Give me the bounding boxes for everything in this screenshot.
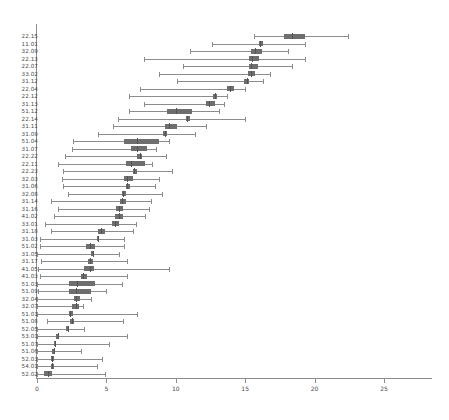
boxplot-row[interactable]: 22.07 (0, 63, 449, 70)
boxplot-row[interactable]: 11.01 (0, 41, 449, 48)
row-label: 51.07 (4, 341, 38, 348)
x-tick-label: 10 (172, 385, 180, 392)
box-iqr[interactable] (69, 281, 95, 286)
boxplot-row[interactable]: 31.16 (0, 206, 449, 213)
whisker-cap-max (156, 147, 157, 152)
whisker-line (51, 231, 133, 232)
box-iqr[interactable] (249, 56, 259, 61)
whisker-line (38, 269, 168, 270)
boxplot-row[interactable]: 31.12 (0, 78, 449, 85)
boxplot-row[interactable]: 51.02 (0, 243, 449, 250)
boxplot-row[interactable]: 31.13 (0, 101, 449, 108)
boxplot-row[interactable]: 32.07 (0, 303, 449, 310)
whisker-cap-max (102, 357, 103, 362)
box-iqr[interactable] (165, 124, 177, 129)
x-tick (315, 379, 316, 383)
boxplot-row[interactable]: 31.11 (0, 123, 449, 130)
whisker-cap-max (105, 372, 106, 377)
median-line (77, 281, 78, 287)
boxplot-row[interactable]: 31.06 (0, 183, 449, 190)
median-line (209, 101, 210, 107)
boxplot-row[interactable]: 52.05 (0, 326, 449, 333)
median-line (119, 206, 120, 212)
boxplot-row[interactable]: 52.03 (0, 356, 449, 363)
boxplot-row[interactable]: 22.22 (0, 153, 449, 160)
whisker-cap-max (123, 319, 124, 324)
whisker-cap-max (348, 34, 349, 39)
box-iqr[interactable] (126, 161, 145, 166)
boxplot-row[interactable]: 51.08 (0, 318, 449, 325)
box-iqr[interactable] (206, 101, 214, 106)
boxplot-row[interactable]: 53.01 (0, 333, 449, 340)
box-iqr[interactable] (124, 176, 132, 181)
boxplot-row[interactable]: 51.06 (0, 348, 449, 355)
whisker-cap-max (263, 79, 264, 84)
boxplot-row[interactable]: 22.14 (0, 116, 449, 123)
boxplot-row[interactable]: 41.03 (0, 273, 449, 280)
whisker-line (63, 186, 155, 187)
whisker-cap-min (41, 259, 42, 264)
boxplot-row[interactable]: 22.04 (0, 86, 449, 93)
median-line (165, 131, 166, 137)
boxplot-row[interactable]: 52.02 (0, 371, 449, 378)
boxplot-row[interactable]: 22.11 (0, 161, 449, 168)
boxplot-row[interactable]: 31.09 (0, 131, 449, 138)
whisker-cap-max (137, 312, 138, 317)
boxplot-row[interactable]: 33.01 (0, 221, 449, 228)
box-iqr[interactable] (167, 109, 192, 114)
boxplot-row[interactable]: 41.05 (0, 266, 449, 273)
row-label: 22.12 (4, 93, 38, 100)
median-line (140, 153, 141, 159)
row-label: 33.02 (4, 71, 38, 78)
box-iqr[interactable] (69, 289, 91, 294)
boxplot-row[interactable]: 31.14 (0, 198, 449, 205)
boxplot-row[interactable]: 32.09 (0, 48, 449, 55)
boxplot-row[interactable]: 22.23 (0, 168, 449, 175)
boxplot-row[interactable]: 51.01 (0, 311, 449, 318)
boxplot-row[interactable]: 31.07 (0, 146, 449, 153)
whisker-cap-max (149, 207, 150, 212)
median-line (76, 296, 77, 302)
boxplot-row[interactable]: 22.15 (0, 33, 449, 40)
row-label: 31.06 (4, 183, 38, 190)
box-iqr[interactable] (251, 49, 262, 54)
whisker-cap-min (58, 207, 59, 212)
whisker-cap-max (219, 109, 220, 114)
boxplot-row[interactable]: 51.09 (0, 288, 449, 295)
boxplot-row[interactable]: 33.02 (0, 71, 449, 78)
median-line (260, 41, 261, 47)
whisker-cap-max (227, 94, 228, 99)
box-iqr[interactable] (284, 34, 305, 39)
whisker-line (177, 81, 263, 82)
boxplot-row[interactable]: 32.04 (0, 296, 449, 303)
boxplot-row[interactable]: 51.07 (0, 341, 449, 348)
whisker-line (37, 314, 137, 315)
row-label: 31.13 (4, 101, 38, 108)
boxplot-row[interactable]: 22.12 (0, 93, 449, 100)
boxplot-row[interactable]: 54.01 (0, 363, 449, 370)
boxplot-row[interactable]: 51.03 (0, 281, 449, 288)
boxplot-row[interactable]: 22.13 (0, 56, 449, 63)
median-line (55, 341, 56, 347)
x-tick (37, 379, 38, 383)
boxplot-row[interactable]: 31.05 (0, 251, 449, 258)
row-label: 41.03 (4, 273, 38, 280)
whisker-line (41, 261, 127, 262)
whisker-line (37, 329, 84, 330)
x-axis-spine (36, 378, 432, 379)
boxplot-row[interactable]: 41.02 (0, 213, 449, 220)
boxplot-row[interactable]: 32.03 (0, 176, 449, 183)
boxplot-row[interactable]: 32.08 (0, 191, 449, 198)
boxplot-row[interactable]: 51.12 (0, 108, 449, 115)
whisker-cap-max (155, 184, 156, 189)
boxplot-row[interactable]: 31.18 (0, 228, 449, 235)
box-iqr[interactable] (131, 146, 146, 151)
boxplot-row[interactable]: 51.04 (0, 138, 449, 145)
x-tick (176, 379, 177, 383)
boxplot-row[interactable]: 31.03 (0, 236, 449, 243)
median-line (215, 93, 216, 99)
whisker-line (58, 209, 150, 210)
box-iqr[interactable] (124, 139, 159, 144)
boxplot-row[interactable]: 31.17 (0, 258, 449, 265)
whisker-cap-max (119, 252, 120, 257)
